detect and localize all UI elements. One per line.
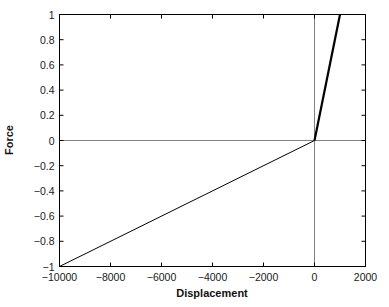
y-tick-label: 0.4 (40, 85, 55, 96)
x-tick-label: −8000 (96, 272, 126, 283)
x-tick-label: −2000 (249, 272, 279, 283)
force-displacement-positive-branch (315, 15, 341, 141)
x-tick-label: 0 (312, 272, 318, 283)
y-tick-label: −1 (43, 261, 55, 272)
y-axis-title: Force (4, 125, 15, 155)
y-tick-label: −0.2 (34, 160, 55, 171)
x-axis-title: Displacement (176, 288, 248, 299)
y-tick-label: 0.6 (40, 60, 55, 71)
y-tick-label: 0.2 (40, 110, 55, 121)
force-displacement-negative-branch (60, 141, 315, 267)
x-tick-label: −4000 (198, 272, 228, 283)
x-tick-label: −10000 (42, 272, 77, 283)
y-tick-label: 0.8 (40, 34, 55, 45)
chart-figure: −10000−8000−6000−4000−200002000−1−0.8−0.… (0, 0, 389, 307)
y-tick-label: −0.6 (34, 211, 55, 222)
y-tick-label: −0.4 (34, 186, 55, 197)
y-tick-label: 1 (49, 9, 55, 20)
plot-canvas (0, 0, 389, 307)
x-tick-label: −6000 (147, 272, 177, 283)
y-tick-label: −0.8 (34, 236, 55, 247)
y-tick-label: 0 (49, 135, 55, 146)
x-tick-label: 2000 (354, 272, 377, 283)
